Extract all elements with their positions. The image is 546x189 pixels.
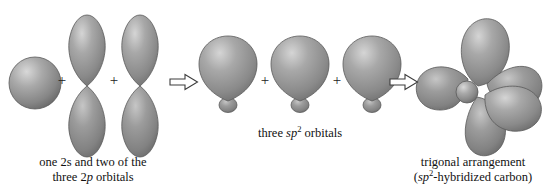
caption-middle-line1: three sp2 orbitals [258, 126, 342, 141]
2s-orbital [9, 57, 61, 109]
caption-right-line2: (sp2-hybridized carbon) [414, 170, 532, 185]
caption-middle-italic: sp [286, 126, 297, 140]
caption-right: trigonal arrangement (sp2-hybridized car… [414, 155, 532, 185]
caption-middle-post: orbitals [301, 126, 342, 140]
caption-right-line2-italic: sp [418, 170, 429, 184]
sp2-hybridization-figure: + + + + one 2s and two of the three 2p o… [0, 0, 546, 189]
caption-left: one 2s and two of the three 2p orbitals [39, 155, 146, 185]
2p-orbital-1 [69, 15, 105, 157]
arrow-right-hollow-icon [389, 73, 419, 91]
plus-operator-3: + [261, 73, 269, 88]
sp2-orbital-2 [271, 36, 329, 113]
caption-left-line1: one 2s and two of the [39, 155, 146, 170]
caption-middle-pre: three [258, 126, 286, 140]
hybridization-arrow-2 [389, 73, 419, 95]
caption-middle: three sp2 orbitals [258, 126, 342, 141]
arrow-right-hollow-icon [169, 73, 199, 91]
diagram-stage: + + + + one 2s and two of the three 2p o… [0, 0, 546, 189]
trigonal-core-sphere [456, 81, 478, 103]
plus-operator-1: + [58, 73, 66, 88]
hybridization-arrow-1 [169, 73, 199, 95]
sp2-orbital-1 [199, 36, 257, 113]
caption-right-line2-post: -hybridized carbon) [433, 170, 532, 184]
plus-operator-4: + [333, 73, 341, 88]
caption-left-line2: three 2p orbitals [39, 170, 146, 185]
trigonal-arrangement [416, 19, 542, 156]
plus-operator-2: + [110, 73, 118, 88]
caption-left-line2-pre: three 2 [52, 170, 86, 184]
2p-orbital-2 [122, 15, 158, 157]
caption-left-line2-post: orbitals [93, 170, 134, 184]
